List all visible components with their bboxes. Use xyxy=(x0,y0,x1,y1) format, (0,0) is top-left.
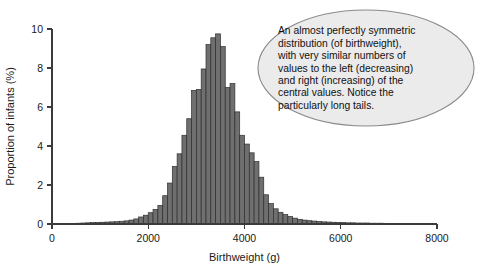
y-tick-label: 4 xyxy=(37,140,43,152)
histogram-bar xyxy=(278,212,283,224)
histogram-bar xyxy=(240,135,245,224)
histogram-bar xyxy=(158,205,163,224)
histogram-bar xyxy=(192,90,197,224)
histogram-bar xyxy=(264,195,269,224)
histogram-bar xyxy=(134,219,139,224)
histogram-bar xyxy=(235,112,240,224)
histogram-bar xyxy=(163,196,168,224)
callout-text-line: distribution (of birthweight), xyxy=(278,38,402,49)
callout-text-line: particularly long tails. xyxy=(278,100,374,111)
histogram-bar xyxy=(249,153,254,224)
y-tick-label: 2 xyxy=(37,179,43,191)
x-axis-title: Birthweight (g) xyxy=(209,251,280,263)
x-tick-label: 8000 xyxy=(425,232,449,244)
histogram-bar xyxy=(269,204,274,224)
x-tick-label: 0 xyxy=(49,232,55,244)
x-tick-label: 4000 xyxy=(233,232,257,244)
histogram-bar xyxy=(245,144,250,224)
histogram-bar xyxy=(283,215,288,224)
callout-text-line: with very similar numbers of xyxy=(277,50,406,61)
histogram-bar xyxy=(143,215,148,224)
histogram-bar xyxy=(196,89,201,224)
y-axis-title: Proportion of infants (%) xyxy=(4,67,16,186)
histogram-figure: 020004000600080000246810Birthweight (g)P… xyxy=(0,0,482,273)
histogram-bar xyxy=(172,166,177,224)
histogram-bar xyxy=(211,38,216,224)
histogram-bar xyxy=(273,209,278,224)
annotation-callout: An almost perfectly symmetricdistributio… xyxy=(258,10,474,126)
histogram-bar xyxy=(177,154,182,224)
chart-canvas: 020004000600080000246810Birthweight (g)P… xyxy=(0,0,482,273)
y-tick-label: 8 xyxy=(37,62,43,74)
callout-text-line: An almost perfectly symmetric xyxy=(278,25,415,36)
histogram-bar xyxy=(201,69,206,224)
histogram-bar xyxy=(148,213,153,224)
histogram-bar xyxy=(288,217,293,224)
callout-text-line: central values. Notice the xyxy=(278,87,394,98)
histogram-bar xyxy=(302,220,307,224)
histogram-bar xyxy=(297,219,302,224)
histogram-bar xyxy=(129,220,134,224)
x-tick-label: 2000 xyxy=(137,232,161,244)
histogram-bar xyxy=(293,218,298,224)
callout-text-line: values to the left (decreasing) xyxy=(278,63,413,74)
y-tick-label: 10 xyxy=(31,23,43,35)
histogram-bar xyxy=(216,34,221,224)
histogram-bar xyxy=(259,177,264,224)
histogram-bar xyxy=(139,217,144,224)
histogram-bar xyxy=(153,209,158,224)
histogram-bar xyxy=(230,84,235,224)
histogram-bar xyxy=(220,47,225,224)
y-tick-label: 0 xyxy=(37,218,43,230)
callout-text-line: and right (increasing) of the xyxy=(278,75,404,86)
x-tick-label: 6000 xyxy=(329,232,353,244)
histogram-bar xyxy=(225,88,230,225)
histogram-bar xyxy=(206,45,211,224)
histogram-bar xyxy=(168,183,173,224)
histogram-bar xyxy=(254,162,259,224)
histogram-bar xyxy=(182,135,187,224)
histogram-bar xyxy=(187,119,192,224)
y-tick-label: 6 xyxy=(37,101,43,113)
